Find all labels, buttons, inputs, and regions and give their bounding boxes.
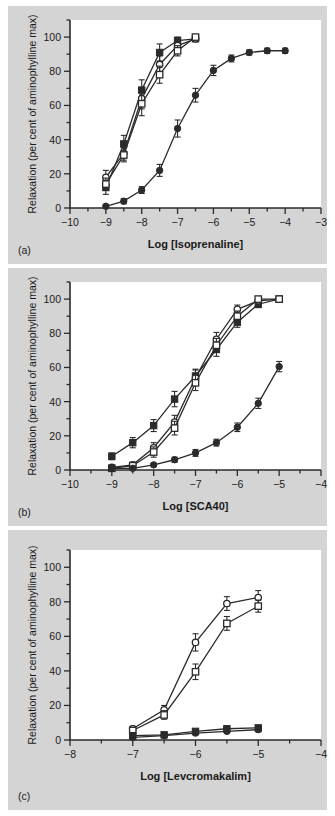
marker-filled-circle [139,187,145,193]
y-tick-label: 60 [49,630,61,642]
y-tick-label: 40 [49,396,61,408]
marker-filled-circle [121,198,127,204]
y-tick-label: 100 [43,31,61,43]
marker-open-square [213,342,219,348]
panel-label: (a) [18,244,31,256]
marker-open-square [174,48,180,54]
marker-open-square [192,34,198,40]
marker-open-square [234,313,240,319]
marker-filled-circle [210,67,216,73]
x-axis-title: Log [Levcromakalim] [140,770,251,782]
marker-filled-circle [224,728,230,734]
marker-filled-circle [255,400,261,406]
x-tick-label: −6 [231,478,243,490]
marker-filled-circle [228,55,234,61]
chart-3: −8−7−6−5−4020406080100Relaxation (per ce… [8,530,327,810]
marker-filled-circle [171,457,177,463]
series-line-filled-square [106,39,196,188]
y-tick-label: 40 [49,665,61,677]
panel-label: (c) [18,790,30,802]
chart-2: −10−9−8−7−6−5−4020406080100Relaxation (p… [8,268,327,526]
panel-label: (b) [18,506,31,518]
x-axis-title: Log [Isoprenaline] [148,238,244,250]
y-tick-label: 20 [49,699,61,711]
x-tick-label: −3 [315,216,327,228]
figure-root: −10−9−8−7−6−5−4−3020406080100Relaxation … [0,0,335,816]
marker-filled-circle [192,92,198,98]
x-tick-label: −8 [136,216,148,228]
marker-open-square [255,603,261,609]
marker-filled-square [150,422,156,428]
marker-filled-circle [130,465,136,471]
y-axis-title: Relaxation (per cent of aminophylline ma… [26,276,38,475]
x-tick-label: −8 [148,478,160,490]
x-tick-label: −6 [207,216,219,228]
x-tick-label: −5 [273,478,285,490]
x-tick-label: −6 [190,748,202,760]
y-axis-title: Relaxation (per cent of aminophylline ma… [26,14,38,213]
y-tick-label: 60 [49,361,61,373]
x-tick-label: −7 [172,216,184,228]
x-tick-label: −4 [315,478,327,490]
x-axis-title: Log [SCA40] [163,500,229,512]
marker-filled-circle [150,462,156,468]
marker-filled-circle [156,167,162,173]
marker-open-square [150,449,156,455]
marker-filled-circle [276,363,282,369]
marker-open-circle [192,639,198,645]
marker-filled-circle [174,125,180,131]
x-tick-label: −4 [315,748,327,760]
marker-open-square [156,71,162,77]
panel-b: −10−9−8−7−6−5−4020406080100Relaxation (p… [8,268,327,526]
marker-filled-circle [103,203,109,209]
y-tick-label: 80 [49,65,61,77]
marker-filled-circle [213,439,219,445]
y-tick-label: 40 [49,134,61,146]
y-tick-label: 80 [49,596,61,608]
marker-filled-circle [255,726,261,732]
marker-open-square [224,620,230,626]
x-tick-label: −7 [190,478,202,490]
marker-filled-square [109,453,115,459]
y-tick-label: 0 [55,464,61,476]
x-tick-label: −7 [127,748,139,760]
x-tick-label: −10 [61,478,79,490]
marker-open-square [192,669,198,675]
y-tick-label: 0 [55,202,61,214]
x-tick-label: −8 [64,748,76,760]
marker-open-square [276,296,282,302]
x-tick-label: −5 [252,748,264,760]
y-tick-label: 100 [43,561,61,573]
marker-filled-square [156,49,162,55]
y-tick-label: 100 [43,293,61,305]
x-tick-label: −10 [61,216,79,228]
marker-open-square [161,712,167,718]
marker-filled-circle [130,734,136,740]
y-axis-title: Relaxation (per cent of aminophylline ma… [26,545,38,744]
x-tick-label: −9 [106,478,118,490]
marker-open-square [255,296,261,302]
marker-open-circle [224,600,230,606]
panel-a: −10−9−8−7−6−5−4−3020406080100Relaxation … [8,6,327,264]
marker-filled-circle [109,465,115,471]
marker-filled-circle [192,450,198,456]
marker-open-square [121,152,127,158]
x-tick-label: −4 [279,216,291,228]
marker-open-square [103,181,109,187]
marker-filled-circle [246,49,252,55]
marker-filled-circle [161,732,167,738]
panel-c: −8−7−6−5−4020406080100Relaxation (per ce… [8,530,327,810]
marker-filled-circle [264,48,270,54]
marker-open-square [192,380,198,386]
y-tick-label: 20 [49,168,61,180]
y-tick-label: 80 [49,327,61,339]
marker-filled-circle [192,730,198,736]
marker-open-square [139,101,145,107]
x-tick-label: −9 [100,216,112,228]
y-tick-label: 0 [55,734,61,746]
marker-filled-square [130,439,136,445]
marker-open-square [171,425,177,431]
y-tick-label: 60 [49,99,61,111]
marker-filled-square [171,396,177,402]
series-line-open-square [106,37,196,184]
